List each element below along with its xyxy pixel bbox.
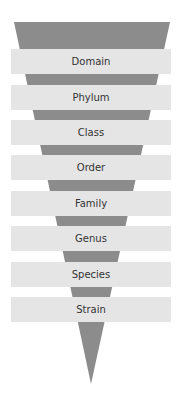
- level-label: Order: [77, 162, 105, 173]
- level-genus: Genus: [11, 226, 171, 251]
- level-label: Class: [78, 127, 104, 138]
- level-label: Genus: [75, 233, 107, 244]
- level-label: Species: [72, 269, 111, 280]
- level-order: Order: [11, 155, 171, 180]
- level-strain: Strain: [11, 297, 171, 322]
- level-label: Domain: [72, 56, 111, 67]
- level-domain: Domain: [11, 49, 171, 74]
- level-label: Family: [75, 198, 107, 209]
- level-phylum: Phylum: [11, 85, 171, 110]
- level-family: Family: [11, 191, 171, 216]
- level-label: Phylum: [72, 92, 109, 103]
- level-label: Strain: [76, 304, 106, 315]
- level-class: Class: [11, 120, 171, 145]
- level-species: Species: [11, 262, 171, 287]
